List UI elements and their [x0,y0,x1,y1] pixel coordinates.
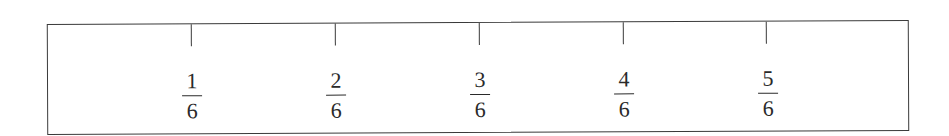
fraction-label-3: 3 6 [470,69,490,121]
numerator: 5 [759,68,776,93]
fraction-label-2: 2 6 [326,70,346,122]
tick-mark-5 [766,22,767,44]
denominator: 6 [475,95,486,121]
fraction-label-1: 1 6 [182,70,202,122]
numerator: 1 [183,70,200,95]
numerator: 2 [327,70,344,95]
tick-mark-2 [335,24,336,46]
denominator: 6 [187,96,198,122]
fraction-label-4: 4 6 [614,68,634,120]
numerator: 4 [615,68,632,93]
numerator: 3 [471,69,488,94]
tick-mark-3 [479,23,480,45]
tick-mark-1 [191,24,192,46]
denominator: 6 [331,96,342,122]
tick-mark-4 [623,22,624,44]
denominator: 6 [619,94,630,120]
fraction-strip: 1 6 2 6 3 6 4 6 5 6 [47,20,909,135]
denominator: 6 [763,94,774,120]
fraction-label-5: 5 6 [758,68,778,120]
